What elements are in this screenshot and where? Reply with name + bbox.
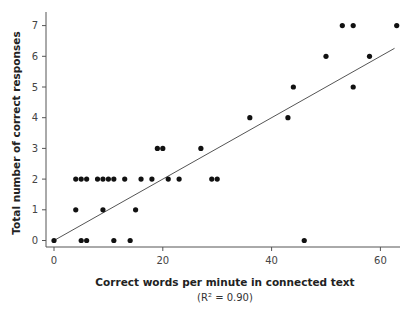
data-point	[111, 238, 116, 243]
y-tick-label: 1	[32, 204, 38, 215]
data-point	[323, 54, 328, 59]
data-point	[84, 238, 89, 243]
x-ticks: 0204060	[51, 247, 387, 266]
data-point	[209, 177, 214, 182]
data-point	[166, 177, 171, 182]
y-tick-label: 3	[32, 143, 38, 154]
x-tick-label: 0	[51, 255, 57, 266]
data-point	[247, 115, 252, 120]
data-point	[73, 207, 78, 212]
data-point	[149, 177, 154, 182]
data-point	[73, 177, 78, 182]
data-point	[79, 238, 84, 243]
data-point	[367, 54, 372, 59]
data-point	[133, 207, 138, 212]
data-point	[51, 238, 56, 243]
y-tick-label: 5	[32, 82, 38, 93]
data-point	[79, 177, 84, 182]
data-point	[100, 177, 105, 182]
y-ticks: 01234567	[32, 20, 46, 246]
data-point	[351, 84, 356, 89]
data-point	[111, 177, 116, 182]
r-squared-label: (R² = 0.90)	[197, 292, 253, 303]
data-point	[95, 177, 100, 182]
data-point	[302, 238, 307, 243]
data-points	[51, 23, 399, 243]
y-tick-label: 4	[32, 112, 38, 123]
data-point	[138, 177, 143, 182]
data-point	[291, 84, 296, 89]
y-tick-label: 2	[32, 174, 38, 185]
y-axis-title: Total number of correct responses	[10, 31, 22, 234]
y-tick-label: 6	[32, 51, 38, 62]
x-tick-label: 40	[265, 255, 278, 266]
data-point	[394, 23, 399, 28]
y-tick-label: 0	[32, 235, 38, 246]
regression-line	[54, 48, 395, 240]
data-point	[340, 23, 345, 28]
data-point	[106, 177, 111, 182]
data-point	[351, 23, 356, 28]
axes	[46, 12, 400, 247]
data-point	[215, 177, 220, 182]
x-tick-label: 20	[156, 255, 169, 266]
data-point	[100, 207, 105, 212]
x-axis-title: Correct words per minute in connected te…	[95, 276, 354, 288]
y-tick-label: 7	[32, 20, 38, 31]
x-tick-label: 60	[374, 255, 387, 266]
scatter-chart: 01234567 0204060 Total number of correct…	[0, 0, 417, 316]
data-point	[122, 177, 127, 182]
data-point	[84, 177, 89, 182]
data-point	[155, 146, 160, 151]
data-point	[177, 177, 182, 182]
data-point	[160, 146, 165, 151]
data-point	[285, 115, 290, 120]
data-point	[128, 238, 133, 243]
data-point	[198, 146, 203, 151]
